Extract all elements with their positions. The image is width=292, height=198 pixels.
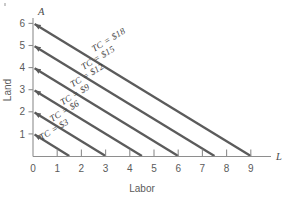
x-tick-marks [57,150,251,157]
isocost-line-tc18 [35,24,251,156]
x-tick-label-2: 2 [79,163,85,174]
y-tick-label-5: 5 [19,40,25,51]
y-tick-marks [29,23,34,133]
scan-artifact [4,3,6,6]
x-tick-label-9: 9 [248,163,254,174]
x-tick-label-0: 0 [30,163,36,174]
isocost-line-group [35,24,251,156]
x-tick-label-7: 7 [200,163,206,174]
y-axis-symbol-A: A [37,6,45,17]
x-axis-title: Labor [129,183,155,194]
x-tick-label-8: 8 [224,163,230,174]
y-tick-label-1: 1 [19,129,25,140]
x-tick-label-1: 1 [54,163,60,174]
isocost-chart: 0 1 2 3 4 5 6 7 8 9 1 2 3 4 5 6 A L Labo… [0,0,292,198]
y-tick-label-2: 2 [19,106,25,117]
x-tick-label-5: 5 [151,163,157,174]
x-tick-label-3: 3 [103,163,109,174]
x-tick-label-4: 4 [127,163,133,174]
y-tick-label-4: 4 [19,62,25,73]
y-axis-title: Land [2,79,13,101]
x-tick-label-6: 6 [175,163,181,174]
y-tick-label-6: 6 [19,18,25,29]
y-tick-label-3: 3 [19,84,25,95]
chart-canvas: 0 1 2 3 4 5 6 7 8 9 1 2 3 4 5 6 A L Labo… [0,0,292,198]
x-axis-symbol-L: L [275,151,282,162]
